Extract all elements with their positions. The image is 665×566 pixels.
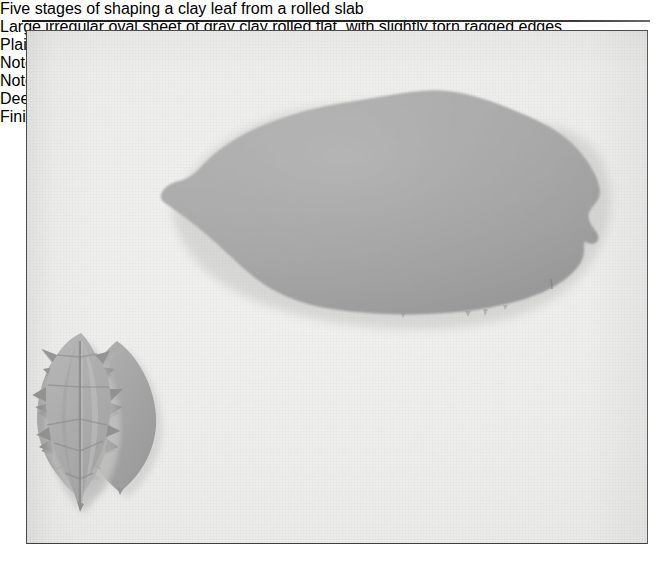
rolled-clay-slab <box>147 83 617 328</box>
photograph-frame <box>26 30 648 544</box>
page-root: Five stages of shaping a clay leaf from … <box>0 0 665 566</box>
leaf-step-5 <box>27 329 147 509</box>
horizontal-rule <box>22 20 650 22</box>
photo-caption: Five stages of shaping a clay leaf from … <box>0 0 665 18</box>
slab-crease-mark <box>551 279 552 289</box>
